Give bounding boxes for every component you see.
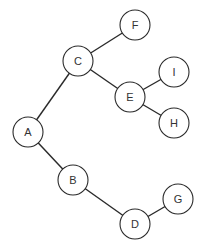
nodes-group: ABCDEFGHI <box>13 10 193 239</box>
node-h: H <box>159 108 189 138</box>
node-label: C <box>74 55 82 67</box>
node-c: C <box>63 46 93 76</box>
tree-diagram-svg: ABCDEFGHI <box>0 0 204 251</box>
node-f: F <box>120 10 150 40</box>
node-label: F <box>132 19 139 31</box>
node-label: H <box>170 117 178 129</box>
node-label: D <box>131 218 139 230</box>
node-label: E <box>126 91 133 103</box>
node-label: I <box>172 66 175 78</box>
edges-group <box>28 25 178 224</box>
node-label: B <box>69 174 76 186</box>
node-b: B <box>58 165 88 195</box>
node-g: G <box>163 184 193 214</box>
tree-diagram: ABCDEFGHI <box>0 0 204 251</box>
node-e: E <box>115 82 145 112</box>
node-d: D <box>120 209 150 239</box>
node-a: A <box>13 117 43 147</box>
node-i: I <box>159 57 189 87</box>
node-label: G <box>174 193 183 205</box>
node-label: A <box>24 126 32 138</box>
